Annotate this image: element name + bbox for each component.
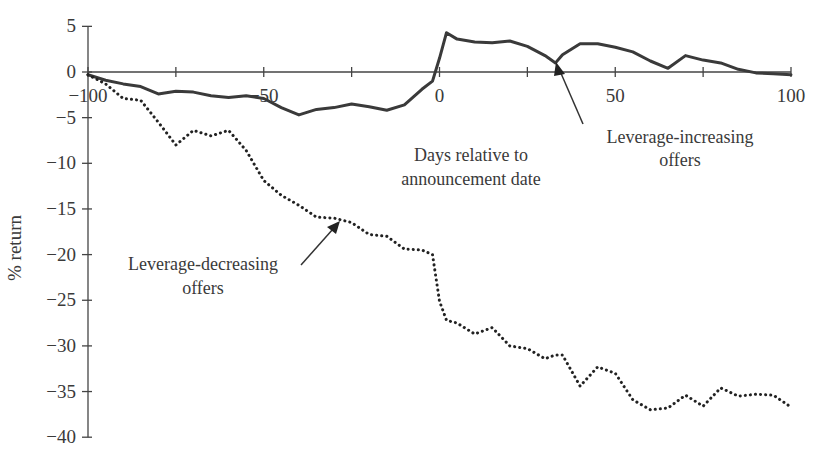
x-axis-label-line2: announcement date xyxy=(401,169,540,189)
y-tick-label: −15 xyxy=(46,198,76,219)
annotation-leverage-increasing-line1: Leverage-increasing xyxy=(607,127,754,147)
y-tick-label: −35 xyxy=(46,381,76,402)
x-axis-label-line1: Days relative to xyxy=(414,145,528,165)
event-study-chart: 50−5−10−15−20−25−30−35−40 −100−50050100 … xyxy=(0,0,814,459)
y-tick-label: −25 xyxy=(46,289,76,310)
annotation-leverage-increasing-line2: offers xyxy=(659,150,701,170)
y-tick-label: −10 xyxy=(46,152,76,173)
y-tick-label: −30 xyxy=(46,335,76,356)
x-tick-label: 50 xyxy=(606,85,625,106)
x-tick-label: 100 xyxy=(777,85,806,106)
arrow-leverage-decreasing xyxy=(301,221,340,265)
y-tick-label: −20 xyxy=(46,244,76,265)
x-axis: −100−50050100 xyxy=(68,67,805,106)
y-tick-label: 0 xyxy=(67,61,77,82)
y-axis-label: % return xyxy=(4,215,25,281)
annotation-leverage-decreasing-line2: offers xyxy=(182,278,224,298)
y-axis: 50−5−10−15−20−25−30−35−40 xyxy=(46,15,92,447)
x-tick-label: 0 xyxy=(435,85,445,106)
arrow-leverage-increasing xyxy=(554,62,583,124)
y-tick-label: 5 xyxy=(67,15,77,36)
y-tick-label: −5 xyxy=(56,107,76,128)
annotation-leverage-decreasing-line1: Leverage-decreasing xyxy=(128,254,278,274)
y-tick-label: −40 xyxy=(46,426,76,447)
series-leverage-decreasing-line xyxy=(88,75,791,410)
x-tick-label: −100 xyxy=(68,85,107,106)
